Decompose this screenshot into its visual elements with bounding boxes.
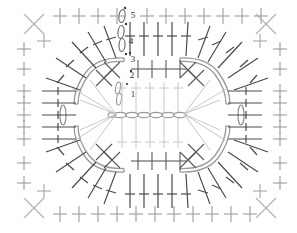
- chain-dot: [124, 7, 126, 9]
- chain-dot: [125, 53, 127, 55]
- crochet-chart-root: 5 4 3 2 1: [0, 0, 297, 233]
- round-label-3: 3: [131, 54, 136, 64]
- chain-dot: [126, 83, 128, 85]
- crochet-chart-svg: 5 4 3 2 1: [0, 0, 297, 233]
- round-label-5: 5: [131, 10, 136, 20]
- round-label-1: 1: [131, 89, 136, 99]
- chain-dot: [125, 23, 127, 25]
- round-label-4: 4: [129, 36, 134, 46]
- round-label-2: 2: [130, 70, 135, 80]
